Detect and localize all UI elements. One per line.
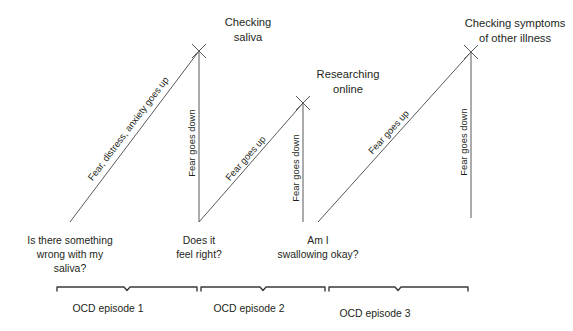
episode-captions: OCD episode 1 OCD episode 2 OCD episode … [72, 303, 410, 319]
fall-label-3: Fear goes down [458, 108, 469, 175]
ocd-cycle-diagram: Checking saliva Fear, distress, anxiety … [0, 0, 573, 331]
peak-label-3-line1: Checking symptoms [465, 17, 566, 29]
trigger-label-1-line1: Is there something [27, 235, 113, 246]
peak-label-2-line1: Researching [317, 68, 380, 80]
diagram-root: Checking saliva Fear, distress, anxiety … [0, 0, 573, 331]
segment-rise-1 [70, 51, 199, 222]
peak-label-2-line2: online [333, 83, 363, 95]
fall-label-1: Fear goes down [186, 109, 197, 176]
fall-label-2: Fear goes down [290, 134, 301, 201]
peak-label-3-line2: of other illness [479, 32, 552, 44]
peak-label-1-line1: Checking [225, 16, 272, 28]
trigger-label-1-line3: saliva? [54, 263, 87, 274]
trigger-label-3-line1: Am I [307, 235, 328, 246]
segment-rise-2 [199, 103, 303, 222]
episode-label-1: OCD episode 1 [72, 303, 143, 314]
trigger-label-2-line1: Does it [183, 235, 215, 246]
episode-label-3: OCD episode 3 [339, 308, 410, 319]
brace-episode-3 [329, 287, 468, 291]
brace-episode-1 [57, 287, 197, 291]
brace-episode-2 [201, 287, 325, 291]
episode-label-2: OCD episode 2 [213, 303, 284, 314]
trigger-label-1-line2: wrong with my [36, 249, 104, 260]
rise-label-3: Fear goes up [366, 108, 411, 156]
trigger-label-2-line2: feel right? [176, 249, 222, 260]
episode-group-2: Researching online Fear goes up Fear goe… [176, 68, 379, 260]
rise-label-2: Fear goes up [223, 134, 268, 183]
episode-group-3: Checking symptoms of other illness Fear … [278, 17, 566, 260]
episode-braces [57, 287, 468, 291]
trigger-label-3-line2: swallowing okay? [278, 249, 359, 260]
rise-label-1: Fear, distress, anxiety goes up [85, 74, 170, 182]
peak-label-1-line2: saliva [234, 31, 263, 43]
episode-group-1: Checking saliva Fear, distress, anxiety … [27, 16, 271, 274]
